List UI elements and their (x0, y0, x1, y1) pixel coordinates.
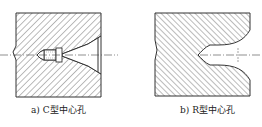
figure-b-caption: b) R型中心孔 (180, 103, 235, 116)
c-type-center-hole-drawing (0, 13, 118, 97)
figure-a-caption: a) C型中心孔 (31, 103, 86, 116)
r-type-center-hole-drawing (155, 13, 262, 96)
